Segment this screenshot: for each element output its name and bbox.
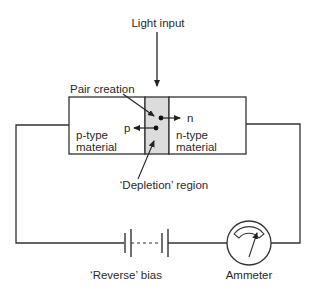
light-input-label: Light input	[131, 17, 185, 29]
p-carrier-label: p	[124, 122, 130, 134]
depletion-region	[145, 97, 169, 154]
reverse-bias-label: ‘Reverse’ bias	[90, 269, 162, 281]
depletion-region-label: ‘Depletion’ region	[120, 179, 208, 191]
ammeter-icon	[227, 221, 271, 265]
ammeter-label: Ammeter	[226, 269, 273, 281]
pair-creation-label: Pair creation	[70, 83, 135, 95]
n-type-label: n-type	[176, 129, 208, 141]
n-type-material-label: material	[176, 141, 217, 153]
p-type-material-label: material	[76, 141, 117, 153]
electron-dot	[159, 116, 164, 121]
photodiode-circuit-diagram: Light input Pair creation n p p-type mat…	[0, 0, 317, 295]
p-type-label: p-type	[76, 129, 108, 141]
n-carrier-label: n	[187, 112, 193, 124]
battery-icon	[125, 229, 168, 257]
hole-dot	[154, 126, 159, 131]
